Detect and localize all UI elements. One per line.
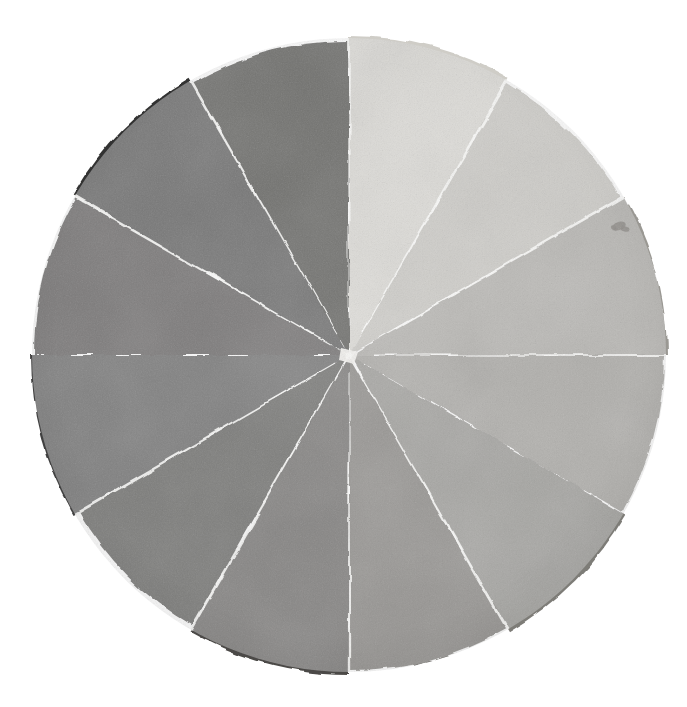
grayscale-value-wheel-figure: value 1 — lightestvalue 2value 3value 4v… — [0, 0, 687, 707]
value-wheel-svg: value 1 — lightestvalue 2value 3value 4v… — [0, 0, 687, 707]
